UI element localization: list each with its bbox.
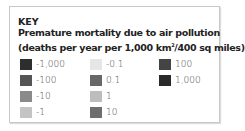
legend-entry: 1,000 xyxy=(159,74,201,86)
color-swatch xyxy=(90,59,102,70)
legend-entry: -0.1 xyxy=(90,58,124,70)
legend-entry: 100 xyxy=(159,58,192,70)
legend-entry-label: 100 xyxy=(175,58,192,70)
color-swatch xyxy=(20,59,32,70)
legend-entry-label: -100 xyxy=(36,74,56,86)
color-swatch xyxy=(90,91,102,102)
legend-entry-label: -10 xyxy=(36,90,51,102)
legend-entry: -10 xyxy=(20,90,51,102)
legend-entry-label: 1 xyxy=(106,90,112,102)
legend-entry-label: 10 xyxy=(106,106,117,118)
legend-entry: -1,000 xyxy=(20,58,65,70)
legend-entry-label: 0.1 xyxy=(106,74,120,86)
legend-entry: 0.1 xyxy=(90,74,120,86)
legend-entries: -1,000 -100 -10 -1 -0.1 0.1 1 10 xyxy=(10,7,219,122)
legend-entry: 10 xyxy=(90,106,117,118)
color-swatch xyxy=(90,75,102,86)
legend-entry-label: 1,000 xyxy=(175,74,201,86)
color-swatch xyxy=(90,107,102,118)
legend-entry-label: -1 xyxy=(36,106,45,118)
legend-entry-label: -1,000 xyxy=(36,58,65,70)
color-swatch xyxy=(159,59,171,70)
legend-box: KEY Premature mortality due to air pollu… xyxy=(9,6,220,123)
legend-entry-label: -0.1 xyxy=(106,58,124,70)
color-swatch xyxy=(20,75,32,86)
color-swatch xyxy=(20,107,32,118)
legend-entry: -100 xyxy=(20,74,56,86)
legend-entry: -1 xyxy=(20,106,45,118)
color-swatch xyxy=(159,75,171,86)
legend-entry: 1 xyxy=(90,90,112,102)
color-swatch xyxy=(20,91,32,102)
